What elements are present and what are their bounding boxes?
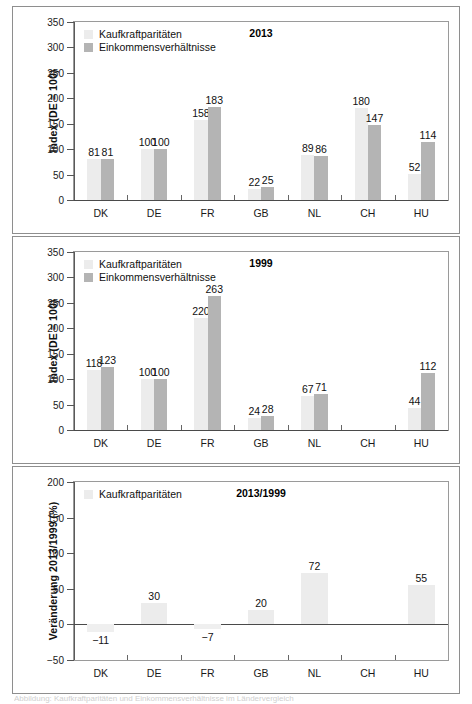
bar-value-nl-s0: 72	[309, 560, 321, 572]
y-tick-label: 200	[47, 93, 64, 104]
x-tick-label-de: DE	[147, 437, 162, 449]
x-tick	[288, 195, 289, 200]
bar-value-nl-s1: 71	[315, 381, 327, 393]
bar-value-fr-s0: −7	[202, 631, 214, 643]
y-tick-label: 150	[47, 512, 64, 523]
chart-panel-2013: Index (DE = 100)050100150200250300350DK8…	[12, 6, 460, 234]
bar-de-s1	[154, 379, 167, 430]
bar-hu-s1	[421, 142, 434, 200]
bar-ch-s1	[368, 125, 381, 200]
y-axis-spine	[74, 482, 75, 660]
x-tick-label-nl: NL	[308, 667, 321, 679]
y-axis-label: Veränderung 2013/1999 (%)	[47, 471, 59, 671]
chart-panel-1999: Index (DE = 100)050100150200250300350DK1…	[12, 236, 460, 464]
bar-nl-s1	[314, 394, 327, 430]
bar-fr-s1	[208, 107, 221, 200]
bar-de-s0	[141, 603, 168, 624]
y-tick	[67, 624, 74, 625]
bar-value-nl-s1: 86	[315, 143, 327, 155]
y-tick	[67, 518, 74, 519]
bar-value-gb-s0: 22	[248, 176, 260, 188]
bar-value-gb-s0: 20	[255, 597, 267, 609]
x-tick-label-ch: CH	[360, 667, 375, 679]
x-tick-label-dk: DK	[93, 437, 108, 449]
x-tick	[341, 655, 342, 660]
bar-de-s0	[141, 379, 154, 430]
y-tick	[67, 328, 74, 329]
y-tick-label: 50	[53, 399, 64, 410]
y-tick-label: 100	[47, 374, 64, 385]
bar-de-s0	[141, 149, 154, 200]
x-tick-label-gb: GB	[253, 667, 268, 679]
bar-value-dk-s0: −11	[92, 634, 109, 646]
bar-hu-s0	[408, 174, 421, 200]
x-tick-label-ch: CH	[360, 437, 375, 449]
x-tick-label-hu: HU	[414, 207, 429, 219]
y-axis-spine	[74, 252, 75, 430]
x-tick	[341, 195, 342, 200]
bar-gb-s1	[261, 416, 274, 430]
bar-value-fr-s1: 183	[205, 94, 223, 106]
y-tick-label: 250	[47, 67, 64, 78]
y-tick-label: 350	[47, 17, 64, 28]
x-tick-label-gb: GB	[253, 437, 268, 449]
bar-dk-s0	[87, 159, 100, 200]
bar-hu-s0	[408, 585, 435, 624]
y-tick-label: 300	[47, 272, 64, 283]
x-tick	[288, 425, 289, 430]
y-tick-label: 0	[58, 619, 64, 630]
y-axis-label-wrap: Index (DE = 100)	[29, 247, 47, 435]
zero-line	[74, 624, 448, 625]
zero-line	[74, 430, 448, 431]
y-tick-label: 150	[47, 348, 64, 359]
y-tick	[67, 589, 74, 590]
x-tick	[127, 655, 128, 660]
panel-title: 1999	[74, 257, 448, 269]
x-tick-label-dk: DK	[93, 207, 108, 219]
x-tick-label-fr: FR	[201, 207, 215, 219]
x-tick-label-hu: HU	[414, 437, 429, 449]
y-tick	[67, 98, 74, 99]
y-tick	[67, 200, 74, 201]
y-tick	[67, 277, 74, 278]
x-tick-label-hu: HU	[414, 667, 429, 679]
y-tick-label: 50	[53, 583, 64, 594]
y-tick-label: 200	[47, 323, 64, 334]
bar-value-ch-s0: 180	[352, 95, 370, 107]
legend-swatch-icon	[84, 43, 93, 52]
legend-label: Einkommensverhältnisse	[99, 271, 216, 284]
legend-item: Einkommensverhältnisse	[84, 271, 216, 284]
x-tick	[234, 655, 235, 660]
chart-panel-2013-1999: Veränderung 2013/1999 (%)−50050100150200…	[12, 466, 460, 694]
y-tick	[67, 660, 74, 661]
y-tick	[67, 553, 74, 554]
bar-gb-s0	[248, 610, 275, 624]
bar-fr-s0	[194, 120, 207, 200]
bar-nl-s0	[301, 396, 314, 430]
bar-value-de-s1: 100	[152, 136, 170, 148]
bar-de-s1	[154, 149, 167, 200]
plot-area: 050100150200250300350DK8181DE100100FR158…	[73, 21, 449, 201]
bar-value-gb-s1: 28	[262, 403, 274, 415]
bar-value-hu-s1: 114	[420, 129, 437, 141]
plot-inner: −50050100150200DK−11DE30FR−7GB20NL72CHHU…	[74, 482, 448, 660]
legend-label: Einkommensverhältnisse	[99, 41, 216, 54]
bar-value-nl-s0: 89	[302, 142, 314, 154]
panel-title: 2013	[74, 27, 448, 39]
bar-hu-s1	[421, 373, 434, 430]
bar-value-dk-s1: 123	[99, 354, 117, 366]
figure-caption: Abbildung: Kaufkraftparitäten und Einkom…	[14, 694, 464, 704]
x-tick	[395, 655, 396, 660]
bar-dk-s1	[101, 159, 114, 200]
bar-value-dk-s1: 81	[102, 146, 114, 158]
bar-gb-s0	[248, 418, 261, 430]
bar-fr-s0	[194, 624, 221, 629]
legend-item: Einkommensverhältnisse	[84, 41, 216, 54]
bar-gb-s1	[261, 187, 274, 200]
y-tick	[67, 149, 74, 150]
x-tick	[341, 425, 342, 430]
y-axis-spine	[74, 22, 75, 200]
y-tick	[67, 175, 74, 176]
plot-area: −50050100150200DK−11DE30FR−7GB20NL72CHHU…	[73, 481, 449, 661]
y-axis-label-wrap: Index (DE = 100)	[29, 17, 47, 205]
